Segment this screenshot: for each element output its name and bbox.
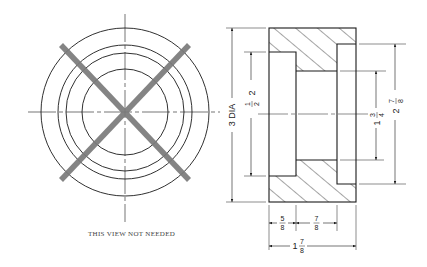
technical-drawing: THIS VIEW NOT NEEDED	[0, 0, 427, 267]
svg-text:4: 4	[378, 113, 385, 117]
svg-text:8: 8	[281, 224, 285, 231]
svg-text:8: 8	[397, 99, 404, 103]
hatched-section-top	[269, 28, 356, 71]
svg-text:8: 8	[315, 224, 319, 231]
svg-text:1: 1	[292, 241, 297, 251]
svg-text:5: 5	[281, 215, 285, 222]
svg-text:2: 2	[253, 102, 260, 106]
svg-text:1: 1	[372, 120, 382, 125]
svg-text:7: 7	[388, 99, 395, 103]
section-view: 3 DIA 2 1 2 1 3 4	[226, 28, 406, 254]
dim-overall-length: 1 7 8	[269, 238, 356, 254]
svg-text:7: 7	[300, 238, 304, 245]
dim-through-hole-length: 7 8	[296, 215, 337, 231]
svg-text:3 DIA: 3 DIA	[227, 104, 237, 127]
svg-text:3: 3	[369, 113, 376, 117]
front-view: THIS VIEW NOT NEEDED	[28, 14, 220, 238]
dim-left-counterbore-depth: 5 8	[269, 215, 296, 231]
svg-text:8: 8	[300, 247, 304, 254]
dim-left-counterbore-diameter: 2 1 2	[244, 52, 260, 176]
svg-text:7: 7	[315, 215, 319, 222]
svg-text:2: 2	[391, 108, 401, 113]
hatched-section-bottom	[269, 160, 356, 202]
dim-through-hole-diameter: 1 3 4	[369, 71, 385, 160]
view-not-needed-note: THIS VIEW NOT NEEDED	[88, 230, 175, 238]
dim-right-counterbore-diameter: 2 7 8	[388, 44, 404, 184]
svg-text:2: 2	[247, 90, 257, 95]
dim-overall-diameter: 3 DIA	[227, 28, 237, 202]
svg-text:1: 1	[244, 102, 251, 106]
